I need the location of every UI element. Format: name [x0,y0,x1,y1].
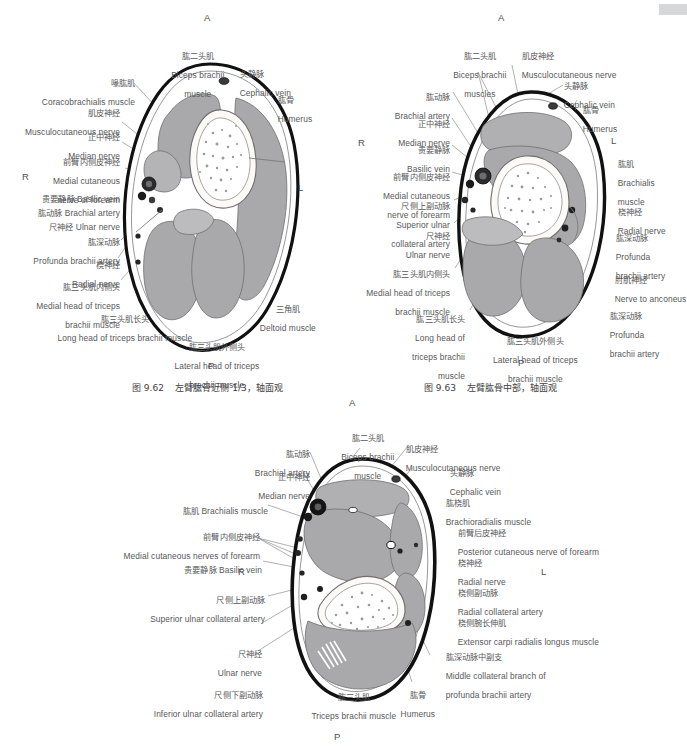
fig3-mcb-en1: Middle collateral branch of [446,671,546,681]
fig2-brachialis-cn: 肱肌 [618,159,634,169]
fig2-humerus-en: Humerus [583,124,618,134]
fig3-svg [290,455,440,705]
fig3-label-humerus: 肱骨 Humerus [385,681,441,729]
fig3-ulnar-cn: 尺神经 [238,649,262,659]
fig2-orientation-anterior: A [498,12,505,23]
fig2-median-cn: 正中神经 [418,119,450,129]
fig2-caption: 图 9.63 左臂肱骨中部，轴面观 [424,381,557,394]
fig2-mcnf-cn: 前臂内侧皮神经 [393,172,450,182]
fig2-longtri-en2: triceps brachii [412,352,465,362]
fig1-lattri-en1: Lateral head of triceps [174,361,259,371]
fig3-suca-en: Superior ulnar collateral artery [150,614,265,624]
fig3-biceps-cn: 肱二头肌 [352,433,384,443]
fig1-medtri-cn: 肱三头肌内侧头 [63,282,120,292]
fig1-label-humerus: 肱骨 Humerus [268,86,328,134]
fig1-cephalic-cn: 头静脉 [240,69,264,79]
fig1-mcnf-cn: 前臂内侧皮神经 [63,157,120,167]
fig3-suca-cn: 尺侧上副动脉 [216,595,265,605]
fig3-biceps-en1: Biceps brachii [341,452,394,462]
fig3-median-cn: 正中神经 [278,472,310,482]
fig1-deltoid-en: Deltoid muscle [260,323,316,333]
musculocutaneous-nerve [349,507,357,512]
fig1-deltoid-cn: 三角肌 [276,304,300,314]
fig1-orientation-anterior: A [204,12,211,23]
fig3-label-brachialis-muscle: 肱肌 Brachialis muscle [150,497,268,526]
fig3-mcn-cn: 肌皮神经 [406,444,438,454]
fig3-basilic-en: Basilic vein [219,565,262,575]
fig2-profunda1-en1: Profunda [616,252,651,262]
fig2-longtri-cn: 肱三头肌长头 [416,314,465,324]
fig3-humerus-en: Humerus [401,709,436,719]
page-corner-mark [659,4,687,15]
fig2-brachial-cn: 肱动脉 [426,92,450,102]
fig2-medtri-cn: 肱三头肌内侧头 [393,269,450,279]
fig2-label-humerus: 肱骨 Humerus [573,96,633,144]
fig1-profunda-cn: 肱深动脉 [88,237,120,247]
fig3-humerus-cn: 肱骨 [410,690,426,700]
fig3-ulnar-en: Ulnar nerve [218,668,262,678]
fig1-orientation-left: L [298,182,303,193]
fig3-mcnf-cn: 前臂内侧皮神经 [203,532,260,542]
fig2-ulnar-en: Ulnar nerve [406,250,450,260]
fig2-lattri-en1: Lateral head of triceps [493,355,578,365]
fig2-biceps-en2: muscles [464,89,495,99]
fig2-profunda2-en1: Profunda [610,330,645,340]
fig1-mcn-cn: 肌皮神经 [88,108,120,118]
fig3-mcb-cn: 肱深动脉中副支 [446,652,503,662]
fig2-lattri-cn: 肱三头肌外侧头 [507,336,564,346]
fig3-basilic-cn: 贵要静脉 [184,565,216,575]
fig2-medtri-en1: Medial head of triceps [366,288,450,298]
fig3-orientation-anterior: A [349,397,356,408]
fig3-rca-cn: 桡侧副动脉 [458,588,498,598]
fig3-label-middle-collateral-branch: 肱深动脉中副支 Middle collateral branch of prof… [436,643,616,710]
fig1-median-cn: 正中神经 [88,132,120,142]
fig3-iuca-en: Inferior ulnar collateral artery [154,709,263,719]
fig3-biceps-en2: muscle [354,471,381,481]
fig3-brachialis-en: Brachialis muscle [201,506,268,516]
fig2-basilic-cn: 贵要静脉 [418,145,450,155]
fig3-orientation-posterior: P [334,731,341,742]
fig1-radial-cn: 桡神经 [96,260,120,270]
fig2-label-long-head-triceps: 肱三头肌长头 Long head of triceps brachii musc… [360,305,465,391]
fig2-profunda1-cn: 肱深动脉 [616,233,648,243]
fig1-biceps-en2: muscle [184,89,211,99]
fig1-coraco-cn: 喙肱肌 [111,78,135,88]
fig1-humerus-cn: 肱骨 [278,95,294,105]
fig3-triceps-en: Triceps brachii muscle [311,711,396,721]
fig3-iuca-cn: 尺侧下副动脉 [214,690,263,700]
fig1-label-deltoid-muscle: 三角肌 Deltoid muscle [245,295,321,343]
fig3-cephalic-cn: 头静脉 [450,468,474,478]
fig2-radial-cn: 桡神经 [618,207,642,217]
fig2-label-profunda-brachii-artery-2: 肱深动脉 Profunda brachii artery [600,302,686,369]
fig3-label-inferior-ulnar-collateral-artery: 尺侧下副动脉 Inferior ulnar collateral artery [95,681,263,729]
fig3-pcnf-cn: 前臂后皮神经 [458,528,507,538]
fig2-profunda2-cn: 肱深动脉 [610,311,642,321]
fig2-biceps-cn: 肱二头肌 [464,51,496,61]
atlas-page: A P R L 肱二头肌 Biceps brachii muscle 喙肱肌 C… [0,0,687,755]
figure-9-64-cross-section [290,455,440,705]
fig2-suca-cn: 尺侧上副动脉 [401,201,450,211]
fig2-anconeus-cn: 肘肌神经 [615,275,647,285]
fig3-ecrl-cn: 桡侧腕长伸肌 [458,618,507,628]
fig3-triceps-cn: 肱三头肌 [338,692,370,702]
triceps-lateral-head [192,219,244,318]
fig2-longtri-en3: muscle [438,371,465,381]
fig3-brachial-cn: 肱动脉 [286,449,310,459]
fig2-cephalic-cn: 头静脉 [564,81,588,91]
fig2-mcn-cn: 肌皮神经 [522,51,554,61]
fig3-radial-cn: 桡神经 [458,558,482,568]
fig2-brachialis-en1: Brachialis [618,178,655,188]
fig1-biceps-en1: Biceps brachii [171,70,224,80]
fig1-label-biceps-brachii: 肱二头肌 Biceps brachii muscle [143,42,243,109]
fig2-longtri-en1: Long head of [415,333,465,343]
fig1-longtri-cn: 肱三头肌长头 [101,314,150,324]
fig3-brachialis-cn: 肱肌 [183,506,199,516]
fig3-mcb-en2: profunda brachii artery [446,690,532,700]
fig1-lattri-cn: 肱三头肌外侧头 [189,342,246,352]
fig2-ulnar-cn: 尺神经 [426,231,450,241]
fig1-biceps-cn: 肱二头肌 [182,51,214,61]
fig1-humerus-en: Humerus [278,114,313,124]
fig3-label-superior-ulnar-collateral-artery: 尺侧上副动脉 Superior ulnar collateral artery [105,586,265,634]
fig3-label-basilic-vein: 贵要静脉 Basilic vein [140,556,262,585]
fig3-brachiorad-cn: 肱桡肌 [446,498,470,508]
